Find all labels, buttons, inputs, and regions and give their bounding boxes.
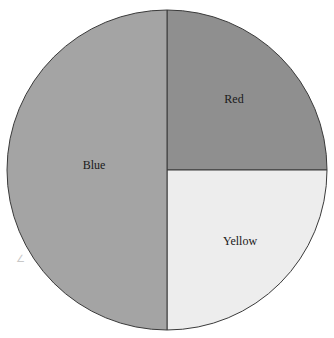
pie-slice-yellow (167, 170, 327, 330)
stray-pen-mark: ∠ (16, 253, 25, 264)
pie-slice-red (167, 10, 327, 170)
slice-label-red: Red (224, 92, 243, 106)
slice-label-blue: Blue (83, 158, 106, 172)
pie-slices (7, 10, 327, 330)
slice-label-yellow: Yellow (223, 234, 257, 248)
pie-chart: RedYellowBlue (0, 0, 334, 338)
